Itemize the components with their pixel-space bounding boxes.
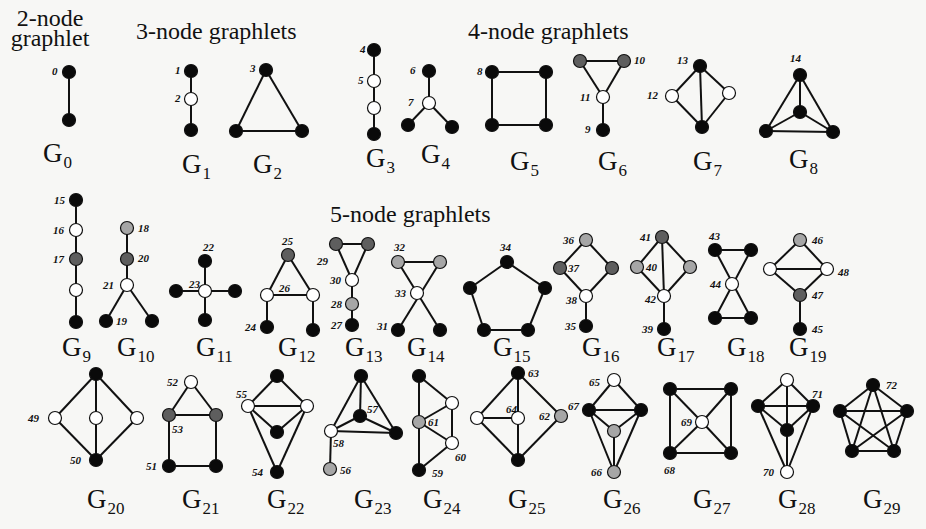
graphlet-letter: G <box>727 332 747 362</box>
node <box>723 87 736 100</box>
graphlet-letter: G <box>423 484 443 514</box>
graphlet-letter: G <box>510 146 530 176</box>
node <box>834 405 847 418</box>
node <box>501 256 514 269</box>
node <box>271 370 284 383</box>
node <box>781 374 794 387</box>
node <box>664 447 677 460</box>
node <box>446 121 459 134</box>
node <box>70 316 83 329</box>
node <box>271 426 284 439</box>
node <box>656 231 669 244</box>
orbit-label: 10 <box>634 54 646 66</box>
orbit-label: 40 <box>645 261 658 273</box>
node <box>608 466 621 479</box>
graphlet-subscript: 7 <box>714 161 723 180</box>
node <box>794 69 807 82</box>
orbit-label: 37 <box>567 262 580 274</box>
node <box>392 324 405 337</box>
node <box>539 282 552 295</box>
node <box>199 314 212 327</box>
graphlet-letter: G <box>43 138 63 168</box>
graphlet-subscript: 9 <box>83 347 92 366</box>
node <box>63 114 76 127</box>
orbit-label: 11 <box>580 91 590 103</box>
orbit-label: 23 <box>188 278 201 290</box>
node <box>325 425 338 438</box>
node <box>330 238 343 251</box>
node <box>423 97 436 110</box>
graphlet-letter: G <box>87 484 107 514</box>
node <box>355 370 368 383</box>
orbit-label: 68 <box>664 464 676 476</box>
graphlet-subscript: 14 <box>428 347 446 366</box>
graphlet-letter: G <box>603 484 623 514</box>
node <box>362 238 375 251</box>
node <box>185 376 198 389</box>
node <box>794 234 807 247</box>
node <box>307 324 320 337</box>
node <box>90 454 103 467</box>
node <box>807 400 820 413</box>
title-5-node: 5-node graphlets <box>330 201 491 227</box>
orbit-label: 58 <box>333 437 345 449</box>
node <box>781 466 794 479</box>
graphlet-subscript: 21 <box>203 499 220 518</box>
node <box>726 278 739 291</box>
node <box>554 262 567 275</box>
graphlet-subscript: 26 <box>624 499 641 518</box>
node <box>199 285 212 298</box>
orbit-label: 69 <box>681 416 693 428</box>
node <box>794 106 807 119</box>
graphlet-subscript: 6 <box>619 161 628 180</box>
orbit-label: 17 <box>53 253 65 265</box>
node <box>230 125 243 138</box>
node <box>411 287 424 300</box>
node <box>185 93 198 106</box>
graphlet-subscript: 4 <box>442 154 451 173</box>
node <box>540 66 553 79</box>
node <box>210 409 223 422</box>
graphlet-subscript: 17 <box>678 347 696 366</box>
graphlet-subscript: 3 <box>387 158 396 177</box>
node <box>354 410 367 423</box>
orbit-label: 32 <box>393 241 406 253</box>
title-4-node: 4-node graphlets <box>468 18 629 44</box>
node <box>423 65 436 78</box>
orbit-label: 28 <box>330 298 343 310</box>
orbit-label: 36 <box>562 234 575 246</box>
orbit-label: 60 <box>455 451 467 463</box>
orbit-label: 47 <box>811 289 824 301</box>
graphlet-letter: G <box>789 332 809 362</box>
node <box>512 454 525 467</box>
orbit-label: 48 <box>837 266 850 278</box>
node <box>49 412 62 425</box>
graphlet-subscript: 2 <box>274 164 283 183</box>
graphlet-subscript: 11 <box>217 347 233 366</box>
orbit-label: 14 <box>790 52 802 64</box>
node <box>781 424 794 437</box>
graphlet-letter: G <box>267 484 287 514</box>
node <box>580 290 593 303</box>
node <box>464 282 477 295</box>
node <box>301 400 314 413</box>
node <box>684 261 697 274</box>
orbit-label: 26 <box>278 282 291 294</box>
node <box>446 397 459 410</box>
node <box>63 66 76 79</box>
node <box>888 445 901 458</box>
node <box>752 400 765 413</box>
node <box>597 91 610 104</box>
orbit-label: 34 <box>499 241 512 253</box>
graphlet-letter: G <box>598 146 618 176</box>
graphlet-letter: G <box>582 332 602 362</box>
node <box>709 244 722 257</box>
orbit-label: 64 <box>506 403 518 415</box>
node <box>846 445 859 458</box>
orbit-label: 39 <box>641 323 654 335</box>
node <box>402 119 415 132</box>
node <box>90 368 103 381</box>
orbit-label: 25 <box>281 235 294 247</box>
title-3-node: 3-node graphlets <box>136 18 297 44</box>
graphlet-letter: G <box>789 144 809 174</box>
